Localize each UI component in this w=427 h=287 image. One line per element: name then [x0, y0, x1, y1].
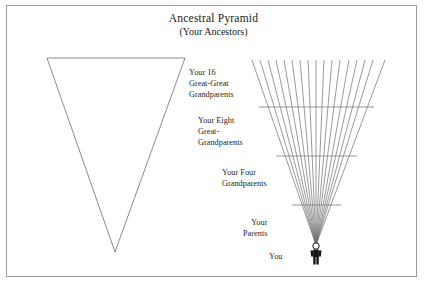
stick-figure-right-arm	[319, 250, 322, 256]
label-parents: Your Parents	[243, 218, 267, 240]
label-you: You	[269, 252, 282, 263]
ancestor-fan	[252, 60, 385, 245]
stick-figure-body	[313, 250, 319, 257]
stick-figure-left-leg	[313, 257, 315, 265]
stick-figure-head-icon	[313, 243, 319, 249]
person-stick-figure	[310, 243, 321, 265]
fan-rays-generation-4	[252, 60, 385, 245]
label-great-great-grandparents: Your 16 Great-Great Grandparents	[189, 68, 234, 101]
inverted-triangle-shape	[47, 58, 185, 252]
stick-figure-right-leg	[316, 257, 318, 265]
stick-figure-left-arm	[310, 250, 313, 256]
label-grandparents: Your Four Grandparents	[222, 168, 267, 190]
label-great-grandparents: Your Eight Great- Grandparents	[198, 116, 243, 149]
inverted-triangle-outline	[47, 58, 185, 252]
ancestral-pyramid-figure: Ancestral Pyramid (Your Ancestors)	[0, 0, 427, 287]
